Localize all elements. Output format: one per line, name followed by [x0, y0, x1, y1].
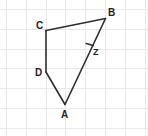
- grid-lines-group: [0, 0, 148, 136]
- tick-marks-group: [86, 44, 93, 46]
- vertex-label-a: A: [61, 110, 68, 120]
- point-label-z: Z: [93, 48, 99, 57]
- geometry-figure-container: B C D A Z: [0, 0, 148, 136]
- vertex-label-d: D: [35, 68, 42, 78]
- figure-segments-group: [46, 19, 106, 105]
- geometry-figure-canvas: [0, 0, 148, 136]
- segment-CB: [46, 19, 106, 31]
- vertex-label-c: C: [36, 21, 43, 31]
- tick-on-AB-at-Z-icon: [86, 44, 93, 46]
- vertex-label-b: B: [108, 8, 115, 18]
